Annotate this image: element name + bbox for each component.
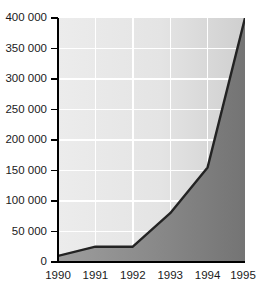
area-chart: 400 000 350 000 300 000 250 000 200 000 …	[0, 0, 262, 293]
x-tick-label: 1991	[83, 269, 109, 281]
chart-container: 400 000 350 000 300 000 250 000 200 000 …	[0, 0, 262, 293]
y-tick-label: 400 000	[5, 11, 47, 23]
y-tick-label: 0	[41, 255, 47, 267]
y-tick-label: 200 000	[5, 133, 47, 145]
x-axis-labels: 1990 1991 1992 1993 1994 1995	[45, 269, 256, 281]
y-tick-label: 300 000	[5, 72, 47, 84]
x-tick-label: 1994	[195, 269, 221, 281]
x-tick-label: 1990	[45, 269, 71, 281]
x-tick-label: 1995	[230, 269, 256, 281]
y-tick-label: 150 000	[5, 164, 47, 176]
x-tick-label: 1992	[120, 269, 146, 281]
y-axis-labels: 400 000 350 000 300 000 250 000 200 000 …	[5, 11, 47, 267]
x-tick-label: 1993	[157, 269, 183, 281]
y-tick-label: 250 000	[5, 103, 47, 115]
y-tick-label: 50 000	[12, 225, 47, 237]
y-tick-label: 350 000	[5, 42, 47, 54]
y-tick-label: 100 000	[5, 194, 47, 206]
